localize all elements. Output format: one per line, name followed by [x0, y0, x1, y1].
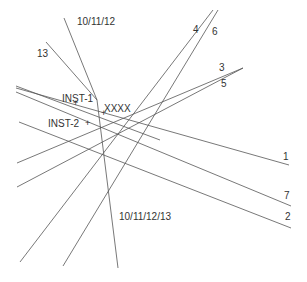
line-label: XXXX [104, 104, 131, 114]
diagram-line [17, 68, 243, 163]
line-label: 3 [219, 63, 225, 73]
line-label: 10/11/12/13 [119, 212, 171, 222]
diagram-line [46, 42, 97, 100]
line-label: 6 [212, 27, 218, 37]
line-label: 4 [193, 25, 199, 35]
line-label: 5 [221, 79, 227, 89]
line-label: 7 [284, 191, 290, 201]
line-label: 1 [283, 152, 289, 162]
diagram-line [63, 10, 218, 266]
line-label: 2 [285, 212, 291, 222]
line-label: 13 [37, 49, 48, 59]
xxxx-marker-icon: + [101, 109, 106, 118]
inst-1-marker-icon: + [73, 99, 78, 108]
line-label: 10/11/12 [77, 17, 115, 27]
inst-2-marker-icon: + [85, 119, 90, 128]
line-label: INST-2 [48, 119, 79, 129]
diagram-line [16, 92, 291, 206]
diagram-canvas [0, 0, 307, 282]
diagram-line [20, 10, 213, 262]
